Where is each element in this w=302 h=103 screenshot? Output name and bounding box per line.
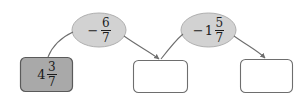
box-2-shape[interactable] [134,61,188,93]
connector-box1-to-oval1 [48,32,73,57]
connector-box2-to-oval2 [161,34,183,59]
oval-1-shape[interactable] [72,13,126,47]
connector-oval2-to-box3 [234,36,265,58]
diagram-canvas [0,0,302,103]
box-3-shape[interactable] [241,60,293,93]
oval-2-shape[interactable] [181,13,236,47]
fraction-flow-diagram: 4 3 7 − 6 7 [0,0,302,103]
box-1-shape[interactable] [21,58,73,92]
connector-oval1-to-box2 [124,36,159,59]
